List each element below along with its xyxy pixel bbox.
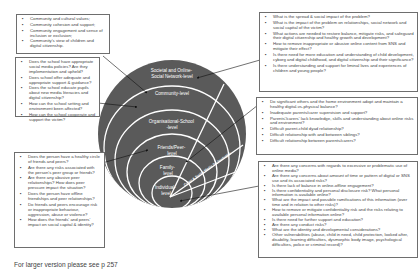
societal-level-box: What is the spread & social impact of th… xyxy=(259,12,418,92)
family-level-box: Do significant others and the home envir… xyxy=(256,97,418,155)
individual-level-box: Are there any concerns with regards to e… xyxy=(258,161,418,258)
school-level-box: Does the school have appropriate social … xyxy=(15,57,100,117)
list-item: What actions are needed to restore balan… xyxy=(273,32,414,42)
community-level-box: Community and cultural values; Community… xyxy=(16,14,110,54)
list-item: Community's view of children and digital… xyxy=(30,39,106,49)
label-societal: Societal and Online- Social Network-leve… xyxy=(151,68,194,79)
list-item: How can the school cooperate and support… xyxy=(29,113,96,123)
label-community: Community-level xyxy=(155,91,189,96)
list-item: Inadequate parents/carer supervision and… xyxy=(270,111,414,116)
list-item: Are there any abusive peer relationships… xyxy=(28,176,101,191)
list-item: How does the friends' and peers' impact … xyxy=(28,218,101,228)
list-item: Difficult relationship between parents/c… xyxy=(270,139,414,144)
list-item: What is the impact of the problem on rel… xyxy=(273,21,414,31)
list-item: How to remove inappropriate or abusive o… xyxy=(273,42,414,52)
list-item: Does the school have appropriate social … xyxy=(29,60,96,75)
list-item: Does the person have a healthy circle of… xyxy=(28,155,101,165)
peer-level-box: Does the person have a healthy circle of… xyxy=(14,152,105,248)
list-item: Community engagement and sense of inclus… xyxy=(30,29,106,39)
list-item: Is there need for more education and und… xyxy=(273,53,414,63)
list-item: Does school offer adequate and appropria… xyxy=(29,76,96,86)
list-item: How can the school setting and environme… xyxy=(29,102,96,112)
list-item: Are there any risks associated with the … xyxy=(28,166,101,176)
list-item: Do significant others and the home envir… xyxy=(270,100,414,110)
list-item: Does the person have offline friendships… xyxy=(28,192,101,202)
list-item: Other vulnerabilities (abuse, child in n… xyxy=(272,233,414,248)
list-item: Does the school educate pupils about new… xyxy=(29,86,96,101)
list-item: Is there understanding and support for l… xyxy=(273,64,414,74)
list-item: Community cohesion and support; xyxy=(30,23,106,28)
list-item: Parents'/carers' lack knowledge, skills … xyxy=(270,117,414,127)
figure-caption: For larger version please see p 257 xyxy=(14,261,118,268)
list-item: Do friends and peers encourage risk or i… xyxy=(28,203,101,218)
